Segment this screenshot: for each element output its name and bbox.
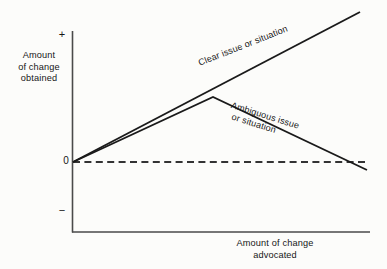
y-axis-negative-marker: −: [56, 205, 68, 217]
figure-container: Amount of change obtained Amount of chan…: [0, 0, 387, 269]
y-axis-label-line-1: Amount: [8, 50, 70, 62]
clear-issue-line: [73, 12, 360, 162]
y-axis-positive-marker: +: [56, 29, 68, 41]
y-axis-zero-label: 0: [58, 155, 69, 167]
y-axis-label: Amount of change obtained: [8, 50, 70, 85]
y-axis-label-line-2: of change: [8, 62, 70, 74]
x-axis-label-line-2: advocated: [210, 250, 340, 262]
x-axis-label: Amount of change advocated: [210, 238, 340, 261]
ambiguous-issue-line: [73, 97, 367, 170]
x-axis-label-line-1: Amount of change: [210, 238, 340, 250]
y-axis-label-line-3: obtained: [8, 73, 70, 85]
